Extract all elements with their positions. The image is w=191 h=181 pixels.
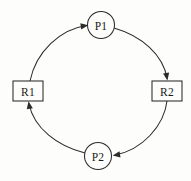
arrowhead-into-r1 (25, 101, 32, 109)
edge-p2-to-r1-path (29, 104, 85, 153)
node-r1[interactable]: R1 (13, 81, 43, 101)
node-r2-label: R2 (160, 86, 174, 98)
edge-p1-to-r2 (114, 28, 170, 81)
node-p1-label: P1 (95, 20, 108, 32)
node-r2[interactable]: R2 (152, 81, 182, 101)
arrowhead-into-p2 (112, 151, 120, 158)
resource-allocation-graph: P1 R2 P2 R1 (0, 0, 191, 181)
arrowhead-into-r2 (163, 72, 170, 80)
diagram-canvas: P1 R2 P2 R1 (0, 0, 191, 181)
node-p2[interactable]: P2 (85, 143, 112, 170)
edge-p1-to-r2-path (114, 28, 167, 78)
edge-p2-to-r1 (25, 101, 85, 153)
edge-group (25, 22, 170, 158)
edge-r2-to-p2 (112, 101, 167, 159)
node-p2-label: P2 (92, 151, 105, 163)
edge-r1-to-p1-path (30, 26, 87, 82)
edge-r1-to-p1 (30, 22, 89, 81)
node-r1-label: R1 (21, 86, 35, 98)
edge-r2-to-p2-path (115, 101, 167, 155)
node-p1[interactable]: P1 (88, 12, 115, 39)
